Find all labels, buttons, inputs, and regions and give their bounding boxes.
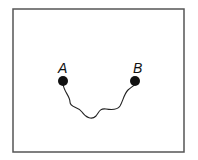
point-a	[58, 76, 68, 86]
point-b	[130, 76, 140, 86]
label-a: A	[57, 60, 67, 76]
diagram-frame	[13, 9, 184, 152]
wavy-path-a-to-b	[63, 84, 135, 118]
diagram-canvas: A B	[0, 0, 198, 160]
label-b: B	[133, 60, 142, 76]
